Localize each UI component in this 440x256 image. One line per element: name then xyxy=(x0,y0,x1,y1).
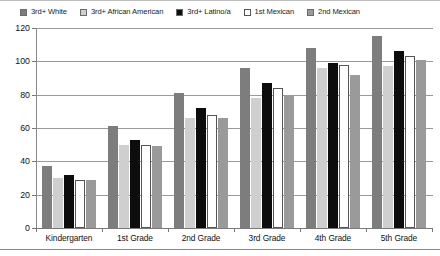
x-tick-mark xyxy=(300,228,301,232)
bar-group xyxy=(366,28,432,228)
bar[interactable] xyxy=(218,118,228,228)
bar[interactable] xyxy=(240,68,250,228)
bar[interactable] xyxy=(86,180,96,228)
y-tick-label: 120 xyxy=(4,23,30,33)
legend-item[interactable]: 2nd Mexican xyxy=(307,8,360,16)
bar[interactable] xyxy=(152,146,162,228)
x-tick-mark xyxy=(102,228,103,232)
bar[interactable] xyxy=(108,126,118,228)
x-tick-label: 1st Grade xyxy=(102,233,168,243)
bar[interactable] xyxy=(273,88,283,228)
bar[interactable] xyxy=(328,63,338,228)
bar[interactable] xyxy=(141,145,151,228)
legend-label: 3rd+ African American xyxy=(91,8,163,16)
y-tick-label: 100 xyxy=(4,56,30,66)
bar[interactable] xyxy=(53,178,63,228)
bar[interactable] xyxy=(251,98,261,228)
legend-item[interactable]: 1st Mexican xyxy=(244,8,294,16)
x-tick-label: 2nd Grade xyxy=(168,233,234,243)
bar-group xyxy=(36,28,102,228)
bar[interactable] xyxy=(339,65,349,228)
x-tick-label: 3rd Grade xyxy=(234,233,300,243)
x-tick-label: 4th Grade xyxy=(300,233,366,243)
bar-groups xyxy=(36,28,432,228)
x-tick-mark-end xyxy=(432,228,433,232)
bar[interactable] xyxy=(185,118,195,228)
x-tick-cell xyxy=(168,228,234,232)
legend-swatch-icon xyxy=(176,9,183,16)
bar-group xyxy=(300,28,366,228)
legend-swatch-icon xyxy=(244,9,251,16)
legend-label: 3rd+ White xyxy=(31,8,67,16)
legend-label: 1st Mexican xyxy=(255,8,294,16)
legend-label: 2nd Mexican xyxy=(318,8,360,16)
x-tick-mark xyxy=(366,228,367,232)
bar[interactable] xyxy=(174,93,184,228)
bar[interactable] xyxy=(42,166,52,228)
bar[interactable] xyxy=(119,145,129,228)
y-tick-label: 80 xyxy=(4,90,30,100)
y-tick-label: 20 xyxy=(4,190,30,200)
x-tick-mark xyxy=(36,228,37,232)
bottom-divider xyxy=(0,249,440,250)
chart-legend: 3rd+ White3rd+ African American3rd+ Lati… xyxy=(0,4,440,20)
x-tick-cell xyxy=(300,228,366,232)
bar[interactable] xyxy=(372,36,382,228)
x-tick-mark xyxy=(234,228,235,232)
legend-item[interactable]: 3rd+ African American xyxy=(80,8,163,16)
bar-chart: 3rd+ White3rd+ African American3rd+ Lati… xyxy=(0,0,440,256)
legend-swatch-icon xyxy=(80,9,87,16)
bar-group xyxy=(234,28,300,228)
bar[interactable] xyxy=(284,95,294,228)
x-tick-cell xyxy=(36,228,102,232)
top-divider xyxy=(0,0,440,1)
bar[interactable] xyxy=(64,175,74,228)
legend-item[interactable]: 3rd+ White xyxy=(20,8,67,16)
bar[interactable] xyxy=(75,180,85,228)
bar[interactable] xyxy=(262,83,272,228)
bar[interactable] xyxy=(207,115,217,228)
y-tick-label: 60 xyxy=(4,123,30,133)
x-tick-mark xyxy=(168,228,169,232)
y-tick-label: 40 xyxy=(4,156,30,166)
x-tick-cell xyxy=(102,228,168,232)
x-axis-ticks xyxy=(36,228,432,232)
x-axis-labels: Kindergarten1st Grade2nd Grade3rd Grade4… xyxy=(36,233,432,243)
bar[interactable] xyxy=(394,51,404,228)
x-tick-label: Kindergarten xyxy=(36,233,102,243)
legend-swatch-icon xyxy=(307,9,314,16)
legend-item[interactable]: 3rd+ Latino/a xyxy=(176,8,230,16)
x-tick-label: 5th Grade xyxy=(366,233,432,243)
bar[interactable] xyxy=(306,48,316,228)
bar[interactable] xyxy=(317,68,327,228)
bar[interactable] xyxy=(383,66,393,228)
y-tick-label: 0 xyxy=(4,223,30,233)
x-tick-cell xyxy=(366,228,432,232)
bar[interactable] xyxy=(350,75,360,228)
bar[interactable] xyxy=(405,56,415,228)
legend-swatch-icon xyxy=(20,9,27,16)
bar-group xyxy=(168,28,234,228)
bar[interactable] xyxy=(130,140,140,228)
legend-label: 3rd+ Latino/a xyxy=(187,8,230,16)
x-tick-cell xyxy=(234,228,300,232)
bar-group xyxy=(102,28,168,228)
bar[interactable] xyxy=(196,108,206,228)
bar[interactable] xyxy=(416,60,426,228)
